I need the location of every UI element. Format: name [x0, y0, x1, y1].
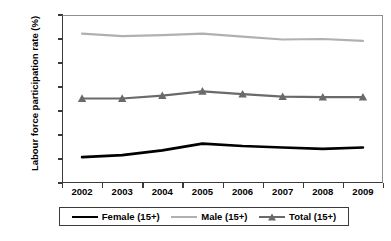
x-tick-label: 2008	[301, 186, 345, 197]
x-tick-label: 2009	[341, 186, 385, 197]
legend-entry[interactable]: Total (15+)	[259, 211, 336, 222]
legend-swatch-icon	[72, 212, 98, 222]
legend-entry[interactable]: Female (15+)	[72, 211, 160, 222]
legend-label: Total (15+)	[289, 211, 336, 222]
x-tick-label: 2006	[221, 186, 265, 197]
x-tick-label: 2005	[180, 186, 224, 197]
legend-label: Female (15+)	[102, 211, 160, 222]
legend-label: Male (15+)	[201, 211, 247, 222]
x-tick-mark	[223, 183, 224, 188]
x-tick-label: 2007	[261, 186, 305, 197]
x-tick-mark	[102, 183, 103, 188]
x-tick-label: 2004	[140, 186, 184, 197]
x-tick-mark	[303, 183, 304, 188]
legend-swatch-icon	[171, 212, 197, 222]
line-chart: Labour force participation rate (%) 50.0…	[0, 0, 391, 241]
x-tick-mark	[182, 183, 183, 188]
x-tick-label: 2003	[100, 186, 144, 197]
x-tick-mark	[343, 183, 344, 188]
x-tick-mark	[62, 183, 63, 188]
triangle-marker-icon	[268, 213, 276, 220]
plot-area	[62, 15, 383, 183]
x-tick-mark	[263, 183, 264, 188]
legend-swatch-icon	[259, 212, 285, 222]
x-tick-mark	[383, 183, 384, 188]
x-tick-label: 2002	[60, 186, 104, 197]
chart-legend: Female (15+)Male (15+)Total (15+)	[59, 207, 349, 226]
y-axis-title: Labour force participation rate (%)	[29, 1, 40, 186]
legend-entry[interactable]: Male (15+)	[171, 211, 247, 222]
x-tick-mark	[142, 183, 143, 188]
